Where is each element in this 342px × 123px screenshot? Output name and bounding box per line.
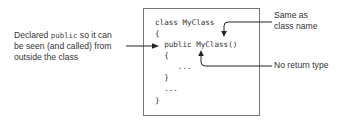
arrow-right-icon bbox=[126, 43, 159, 49]
arrow-curved-down-icon bbox=[221, 22, 272, 37]
arrows bbox=[0, 0, 342, 123]
constructor-diagram: Declared public so it can be seen (and c… bbox=[0, 0, 342, 123]
arrow-curved-up-icon bbox=[198, 50, 272, 66]
